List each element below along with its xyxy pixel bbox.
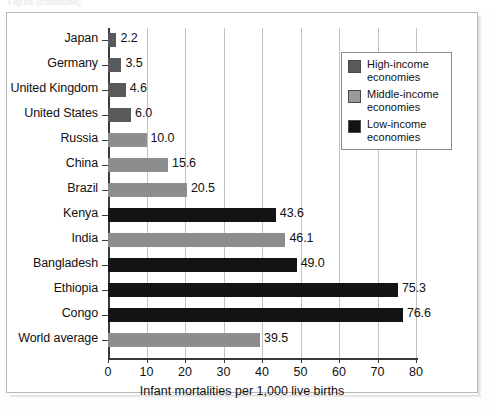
category-label: United States — [0, 106, 98, 120]
x-tick-0 — [108, 358, 109, 363]
x-tick-label: 20 — [165, 365, 205, 379]
x-tick-40 — [262, 358, 263, 363]
bar-row: Congo76.6 — [108, 303, 416, 328]
category-label: Russia — [0, 131, 98, 145]
x-tick-label: 50 — [281, 365, 321, 379]
bar — [108, 258, 297, 272]
bar — [108, 308, 403, 322]
bar-value-label: 46.1 — [289, 231, 313, 245]
x-tick-70 — [378, 358, 379, 363]
page-header-strip: Figure (continued) — [0, 0, 496, 11]
x-tick-60 — [339, 358, 340, 363]
bar-value-label: 76.6 — [407, 306, 431, 320]
legend-swatch-high — [348, 60, 361, 73]
x-tick-label: 60 — [319, 365, 359, 379]
bar-value-label: 49.0 — [301, 256, 325, 270]
x-tick-20 — [185, 358, 186, 363]
x-axis-line — [108, 358, 418, 360]
category-label: United Kingdom — [0, 81, 98, 95]
bar-value-label: 2.2 — [120, 31, 137, 45]
bar-row: India46.1 — [108, 228, 416, 253]
legend-item: Low-incomeeconomies — [348, 118, 445, 143]
bar-row: Japan2.2 — [108, 28, 416, 53]
x-tick-label: 40 — [242, 365, 282, 379]
bar-value-label: 20.5 — [191, 181, 215, 195]
x-tick-30 — [224, 358, 225, 363]
bar-value-label: 75.3 — [402, 281, 426, 295]
bar-value-label: 39.5 — [264, 331, 288, 345]
bar-value-label: 6.0 — [135, 106, 152, 120]
bar — [108, 83, 126, 97]
x-tick-50 — [301, 358, 302, 363]
bar — [108, 283, 398, 297]
legend-label: High-incomeeconomies — [367, 58, 429, 83]
page-header-faint-text: Figure (continued) — [8, 0, 81, 7]
category-label: Ethiopia — [0, 281, 98, 295]
legend-swatch-middle — [348, 90, 361, 103]
x-tick-label: 70 — [358, 365, 398, 379]
bar-value-label: 10.0 — [151, 131, 175, 145]
category-label: India — [0, 231, 98, 245]
x-tick-label: 80 — [396, 365, 436, 379]
bar — [108, 333, 260, 347]
legend-item: High-incomeeconomies — [348, 58, 445, 83]
bar — [108, 133, 147, 147]
legend-swatch-low — [348, 120, 361, 133]
x-axis-title: Infant mortalities per 1,000 live births — [7, 384, 477, 398]
bar — [108, 108, 131, 122]
bar-row: Ethiopia75.3 — [108, 278, 416, 303]
bar — [108, 58, 121, 72]
legend-label: Low-incomeeconomies — [367, 118, 426, 143]
x-tick-80 — [416, 358, 417, 363]
category-label: Congo — [0, 306, 98, 320]
bar-value-label: 15.6 — [172, 156, 196, 170]
bar — [108, 208, 276, 222]
category-label: Brazil — [0, 181, 98, 195]
category-label: Japan — [0, 31, 98, 45]
page-canvas: Figure (continued) Japan2.2Germany3.5Uni… — [0, 0, 496, 413]
category-label: Kenya — [0, 206, 98, 220]
bar — [108, 233, 285, 247]
legend-label: Middle-incomeeconomies — [367, 88, 439, 113]
bar-row: Bangladesh49.0 — [108, 253, 416, 278]
x-tick-label: 30 — [204, 365, 244, 379]
bar-row: Brazil20.5 — [108, 178, 416, 203]
x-tick-label: 0 — [88, 365, 128, 379]
x-tick-label: 10 — [127, 365, 167, 379]
bar — [108, 183, 187, 197]
figure-shadow-right — [478, 16, 482, 396]
bar-row: China15.6 — [108, 153, 416, 178]
bar-value-label: 43.6 — [280, 206, 304, 220]
category-label: Germany — [0, 56, 98, 70]
x-tick-10 — [147, 358, 148, 363]
category-label: World average — [0, 331, 98, 345]
bar-row: World average39.5 — [108, 328, 416, 353]
figure-frame: Japan2.2Germany3.5United Kingdom4.6Unite… — [6, 12, 478, 393]
bar-value-label: 4.6 — [130, 81, 147, 95]
legend-item: Middle-incomeeconomies — [348, 88, 445, 113]
bar-value-label: 3.5 — [125, 56, 142, 70]
bar — [108, 158, 168, 172]
bar-row: Kenya43.6 — [108, 203, 416, 228]
category-label: Bangladesh — [0, 256, 98, 270]
bar — [108, 33, 116, 47]
category-label: China — [0, 156, 98, 170]
chart-legend: High-incomeeconomiesMiddle-incomeeconomi… — [341, 52, 452, 150]
